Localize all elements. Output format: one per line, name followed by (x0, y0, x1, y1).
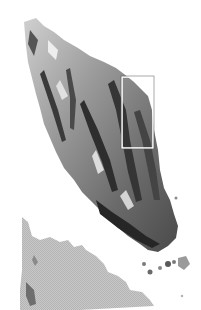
relief-map-canvas (0, 0, 201, 310)
peninsula (24, 18, 178, 252)
relief-map (0, 0, 201, 310)
